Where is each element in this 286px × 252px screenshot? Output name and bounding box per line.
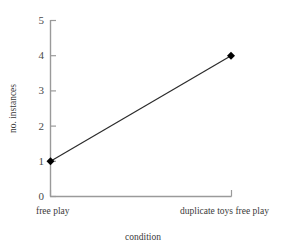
y-tick-label-4: 4 — [32, 50, 44, 61]
x-axis-ticks — [51, 190, 232, 197]
y-tick-label-5: 5 — [32, 15, 44, 26]
data-point-marker-duplicate-toys-free-play — [227, 52, 235, 60]
y-tick-label-2: 2 — [32, 121, 44, 132]
data-line-series-1 — [51, 56, 232, 162]
y-tick-label-3: 3 — [32, 85, 44, 96]
chart-figure: 5 4 3 2 1 0 free play duplicate toys fre… — [0, 0, 286, 252]
y-axis-title: no. instances — [8, 69, 19, 149]
x-category-label-duplicate-toys-free-play: duplicate toys free play — [180, 206, 269, 217]
y-axis-ticks — [51, 21, 57, 197]
x-axis-title: condition — [0, 232, 286, 243]
y-tick-label-1: 1 — [32, 156, 44, 167]
x-category-label-free-play: free play — [36, 206, 70, 217]
y-tick-label-0: 0 — [32, 191, 44, 202]
data-point-marker-free-play — [47, 157, 55, 165]
